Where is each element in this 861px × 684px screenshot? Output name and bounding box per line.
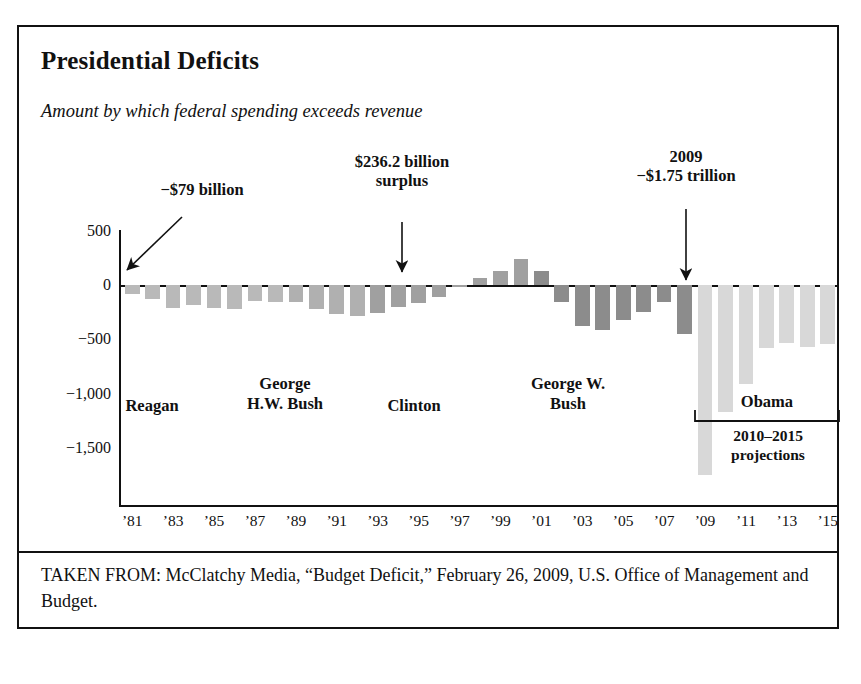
bar-chart-plot: 5000−500−1,000−1,500’81’83’85’87’89’91’9… (19, 27, 841, 631)
y-axis-tick-label: 0 (31, 276, 111, 294)
bar-1999 (493, 271, 508, 285)
bar-2003 (575, 285, 590, 326)
chart-frame: Presidential Deficits Amount by which fe… (17, 25, 839, 629)
x-axis-tick-label: ’85 (194, 512, 234, 530)
bar-2008 (677, 285, 692, 334)
bar-1981 (125, 285, 140, 294)
bar-1985 (207, 285, 222, 308)
bar-1995 (411, 285, 426, 303)
bar-2001 (534, 271, 549, 285)
bar-2000 (514, 259, 529, 285)
x-axis-tick-label: ’89 (276, 512, 316, 530)
bar-1997 (452, 285, 467, 287)
x-axis-tick-label: ’05 (603, 512, 643, 530)
x-axis-tick-label: ’83 (153, 512, 193, 530)
annotation-first-bar: −$79 billion (117, 180, 287, 199)
x-axis-tick-label: ’09 (685, 512, 725, 530)
bar-1991 (329, 285, 344, 314)
bar-2004 (595, 285, 610, 330)
bar-2002 (554, 285, 569, 302)
bar-1984 (186, 285, 201, 305)
bar-2011 (739, 285, 754, 384)
bar-1986 (227, 285, 242, 309)
x-axis-tick-label: ’81 (112, 512, 152, 530)
bar-1993 (370, 285, 385, 313)
bar-1990 (309, 285, 324, 309)
x-axis-tick-label: ’03 (562, 512, 602, 530)
bar-2014 (800, 285, 815, 347)
bar-1996 (432, 285, 447, 297)
bar-2005 (616, 285, 631, 320)
bar-1998 (473, 278, 488, 285)
x-axis-tick-label: ’93 (358, 512, 398, 530)
era-label-obama: Obama (712, 392, 822, 412)
bar-2015 (820, 285, 835, 344)
bar-1989 (289, 285, 304, 302)
bar-1983 (166, 285, 181, 308)
annotation-2009: 2009 −$1.75 trillion (606, 147, 766, 186)
x-axis-tick-label: ’11 (726, 512, 766, 530)
source-note: TAKEN FROM: McClatchy Media, “Budget Def… (41, 563, 821, 614)
era-label-ghw-bush: George H.W. Bush (215, 374, 355, 414)
bar-1994 (391, 285, 406, 307)
bar-2012 (759, 285, 774, 348)
bar-2006 (636, 285, 651, 312)
bar-2013 (779, 285, 794, 343)
footer-divider (19, 551, 837, 553)
y-axis-tick-label: −500 (31, 330, 111, 348)
era-label-gw-bush: George W. Bush (498, 374, 638, 414)
x-axis (119, 505, 839, 507)
x-axis-tick-label: ’87 (235, 512, 275, 530)
x-axis-tick-label: ’01 (521, 512, 561, 530)
bar-2007 (657, 285, 672, 302)
y-axis (119, 230, 121, 505)
y-axis-tick-label: −1,500 (31, 439, 111, 457)
bar-1987 (248, 285, 263, 301)
projection-note: 2010–2015 projections (697, 427, 839, 464)
era-label-clinton: Clinton (359, 396, 469, 416)
x-axis-tick-label: ’99 (480, 512, 520, 530)
bar-1982 (145, 285, 160, 299)
bar-1988 (268, 285, 283, 302)
era-label-reagan: Reagan (97, 396, 207, 416)
x-axis-tick-label: ’13 (767, 512, 807, 530)
x-axis-tick-label: ’07 (644, 512, 684, 530)
x-axis-tick-label: ’95 (399, 512, 439, 530)
x-axis-tick-label: ’15 (808, 512, 848, 530)
x-axis-tick-label: ’91 (317, 512, 357, 530)
y-axis-tick-label: 500 (31, 222, 111, 240)
x-axis-tick-label: ’97 (440, 512, 480, 530)
annotation-surplus: $236.2 billion surplus (322, 152, 482, 191)
bar-1992 (350, 285, 365, 316)
